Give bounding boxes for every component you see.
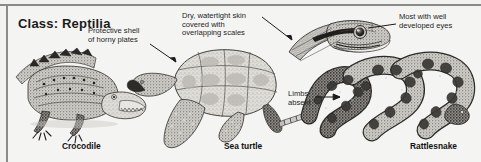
- annotation-dry-skin: Dry, watertight skin covered with overla…: [182, 12, 246, 38]
- annotation-developed-eyes: Most with well developed eyes: [399, 13, 452, 30]
- caption-rattlesnake: Rattlesnake: [410, 141, 457, 151]
- reptilia-figure: Class: Reptilia Protective shell of horn…: [0, 0, 481, 162]
- leader-dry-skin: [262, 17, 294, 40]
- annotation-protective-shell: Protective shell of horny plates: [88, 27, 140, 44]
- caption-crocodile: Crocodile: [62, 141, 101, 151]
- annotation-limbs-absent: Limbs absent: [288, 90, 311, 107]
- sea-turtle-illustration: [127, 49, 282, 148]
- leader-protective-shell: [150, 44, 178, 62]
- crocodile-illustration: [16, 48, 146, 143]
- caption-sea-turtle: Sea turtle: [224, 141, 262, 151]
